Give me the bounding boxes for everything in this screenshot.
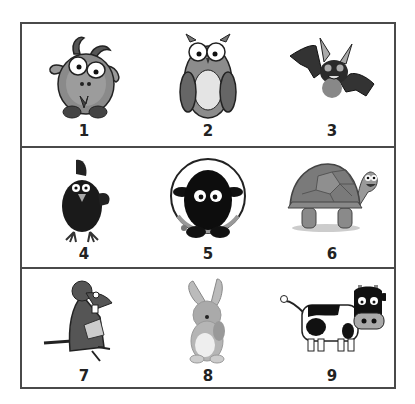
animal-grid: 1 2 xyxy=(20,22,396,389)
grid-cell-2: 2 xyxy=(146,24,270,144)
grid-cell-8: 8 xyxy=(146,269,270,389)
grid-row-3: 7 8 xyxy=(22,267,394,389)
rabbit-icon xyxy=(183,277,233,365)
bat-icon xyxy=(286,32,378,112)
animal-number-label: 1 xyxy=(22,122,146,140)
grid-cell-1: 1 xyxy=(22,24,146,144)
sheep-icon xyxy=(168,156,248,240)
grid-cell-6: 6 xyxy=(270,148,394,267)
goat-icon xyxy=(44,32,124,120)
owl-icon xyxy=(178,32,238,122)
mouse-icon xyxy=(42,277,126,363)
cow-icon xyxy=(278,277,386,357)
grid-row-1: 1 2 xyxy=(22,24,394,144)
turtle-icon xyxy=(284,156,380,236)
animal-number-label: 8 xyxy=(146,367,270,385)
grid-cell-3: 3 xyxy=(270,24,394,144)
grid-cell-4: 4 xyxy=(22,148,146,267)
grid-cell-9: 9 xyxy=(270,269,394,389)
rooster-icon xyxy=(54,156,114,246)
animal-number-label: 7 xyxy=(22,367,146,385)
animal-number-label: 9 xyxy=(270,367,394,385)
animal-number-label: 3 xyxy=(270,122,394,140)
animal-number-label: 4 xyxy=(22,245,146,263)
animal-number-label: 5 xyxy=(146,245,270,263)
grid-cell-7: 7 xyxy=(22,269,146,389)
animal-number-label: 6 xyxy=(270,245,394,263)
grid-row-2: 4 5 xyxy=(22,146,394,267)
grid-cell-5: 5 xyxy=(146,148,270,267)
animal-number-label: 2 xyxy=(146,122,270,140)
